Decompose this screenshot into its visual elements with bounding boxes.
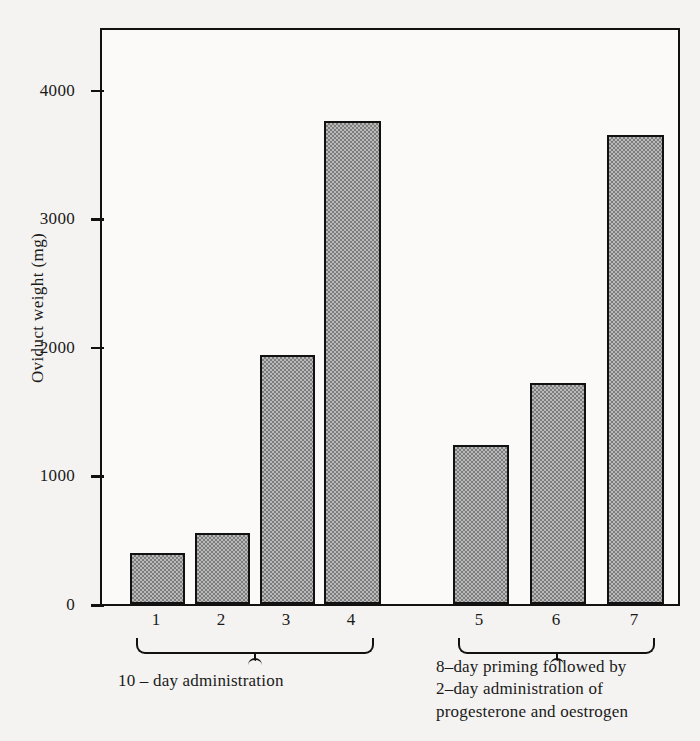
group-caption-right-line-2: 2–day administration of — [436, 678, 628, 700]
bar-5 — [453, 445, 509, 604]
bar-series — [102, 30, 678, 604]
x-axis-label-1: 1 — [152, 610, 161, 630]
bar-2 — [195, 533, 250, 604]
group-caption-left-line-1: 10 – day administration — [118, 670, 284, 692]
y-tick-label-2000: 2000 — [40, 338, 75, 358]
x-axis-label-2: 2 — [217, 610, 226, 630]
group-brace-left-nub — [248, 658, 262, 670]
group-brace-left — [136, 638, 374, 654]
x-axis-label-5: 5 — [475, 610, 484, 630]
bar-4 — [324, 121, 381, 604]
x-axis-label-7: 7 — [630, 610, 639, 630]
group-caption-left: 10 – day administration — [118, 670, 284, 692]
bar-7 — [607, 135, 664, 604]
bar-chart-figure: Oviduct weight (mg) 0 1000 2000 3000 400… — [0, 0, 700, 741]
x-axis-label-4: 4 — [347, 610, 356, 630]
y-tick-label-4000: 4000 — [40, 81, 75, 101]
group-caption-right: 8–day priming followed by 2–day administ… — [436, 656, 628, 723]
y-tick-label-3000: 3000 — [40, 209, 75, 229]
y-tick-label-0: 0 — [66, 595, 75, 615]
x-axis-label-6: 6 — [552, 610, 561, 630]
plot-area: 0 1000 2000 3000 4000 — [100, 28, 680, 606]
x-axis-label-3: 3 — [282, 610, 291, 630]
bar-1 — [130, 553, 185, 604]
bar-6 — [530, 383, 586, 604]
y-tick-0: 0 — [91, 604, 104, 607]
group-caption-right-line-1: 8–day priming followed by — [436, 656, 628, 678]
group-brace-right — [458, 638, 655, 654]
bar-3 — [260, 355, 315, 604]
group-caption-right-line-3: progesterone and oestrogen — [436, 701, 628, 723]
y-tick-label-1000: 1000 — [40, 466, 75, 486]
